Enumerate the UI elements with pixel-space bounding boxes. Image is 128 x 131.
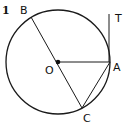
label-o: O [45, 64, 54, 77]
geometry-diagram: 1 B T O A C [0, 0, 128, 131]
label-b: B [20, 4, 28, 17]
problem-number: 1 [2, 4, 10, 17]
label-a: A [113, 61, 121, 74]
center-dot [56, 60, 61, 65]
chord-ac [82, 62, 110, 108]
label-c: C [83, 112, 91, 125]
label-t: T [114, 12, 122, 25]
